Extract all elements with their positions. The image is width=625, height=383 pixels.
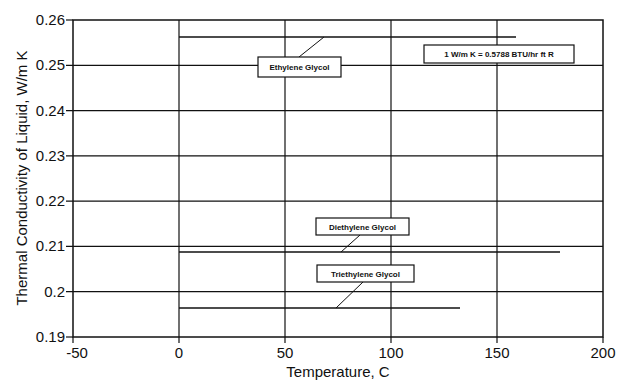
- svg-text:Diethylene Glycol: Diethylene Glycol: [329, 223, 396, 232]
- svg-text:0.22: 0.22: [36, 192, 65, 209]
- svg-text:-50: -50: [66, 344, 88, 361]
- svg-text:0.26: 0.26: [36, 11, 65, 28]
- svg-text:200: 200: [590, 344, 615, 361]
- svg-text:0.25: 0.25: [36, 56, 65, 73]
- svg-text:50: 50: [277, 344, 294, 361]
- y-axis-title: Thermal Conductivity of Liquid, W/m K: [13, 50, 30, 305]
- svg-text:0.2: 0.2: [44, 283, 65, 300]
- svg-text:0.24: 0.24: [36, 102, 65, 119]
- svg-text:0.23: 0.23: [36, 147, 65, 164]
- chart: 0.26 0.25 0.24 0.23 0.22 0.21 0.2 0.19 -…: [0, 0, 625, 383]
- label-ethylene-glycol: Ethylene Glycol: [258, 57, 341, 77]
- svg-text:Ethylene Glycol: Ethylene Glycol: [269, 63, 329, 72]
- svg-text:0.21: 0.21: [36, 237, 65, 254]
- svg-text:100: 100: [378, 344, 403, 361]
- y-tick-labels: 0.26 0.25 0.24 0.23 0.22 0.21 0.2 0.19: [36, 11, 65, 345]
- x-axis-title: Temperature, C: [286, 363, 390, 380]
- svg-text:0: 0: [175, 344, 183, 361]
- svg-text:Triethylene Glycol: Triethylene Glycol: [331, 270, 400, 279]
- svg-text:0.19: 0.19: [36, 328, 65, 345]
- label-conversion-note: 1 W/m K = 0.5788 BTU/hr ft R: [424, 45, 574, 63]
- svg-text:1 W/m K = 0.5788 BTU/hr ft R: 1 W/m K = 0.5788 BTU/hr ft R: [444, 50, 554, 59]
- label-triethylene-glycol: Triethylene Glycol: [317, 265, 414, 282]
- x-tick-labels: -50 0 50 100 150 200: [66, 344, 615, 361]
- label-diethylene-glycol: Diethylene Glycol: [316, 218, 409, 235]
- svg-text:150: 150: [484, 344, 509, 361]
